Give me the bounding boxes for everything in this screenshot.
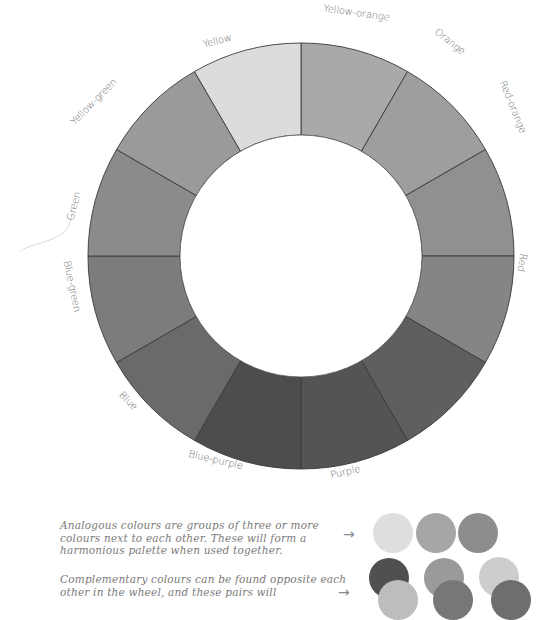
- label-yellow: Yellow: [201, 32, 232, 50]
- label-red-orange: Red-orange: [498, 79, 529, 135]
- analogous-swatch: [458, 513, 498, 553]
- analogous-swatch: [373, 513, 413, 553]
- label-yellow-green: Yellow-green: [68, 76, 119, 127]
- complementary-swatch-front: [491, 580, 531, 620]
- arrow-right-icon: →: [338, 585, 350, 599]
- analogous-swatch: [416, 513, 456, 553]
- label-yellow-orange: Yellow-orange: [323, 2, 391, 22]
- wheel-center-hole: [180, 135, 422, 377]
- label-green: Green: [65, 191, 83, 222]
- complementary-swatch-front: [378, 580, 418, 620]
- label-blue: Blue: [117, 389, 140, 412]
- complementary-description: Complementary colours can be found oppos…: [60, 573, 360, 598]
- complementary-swatch-front: [433, 580, 473, 620]
- arrow-right-icon: →: [343, 527, 355, 541]
- analogous-description: Analogous colours are groups of three or…: [60, 519, 360, 557]
- label-orange: Orange: [433, 26, 468, 56]
- label-blue-green: Blue-green: [62, 260, 84, 313]
- analogous-swatches: [373, 513, 498, 553]
- label-red: Red: [515, 253, 529, 273]
- complementary-swatches: [369, 557, 531, 620]
